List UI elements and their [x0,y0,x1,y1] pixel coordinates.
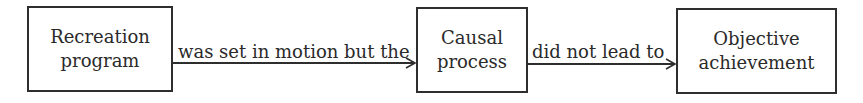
edge-label-set-in-motion: was set in motion but the [178,42,410,62]
edge-arrows [0,0,863,103]
edge-label-did-not-lead: did not lead to [532,42,664,62]
